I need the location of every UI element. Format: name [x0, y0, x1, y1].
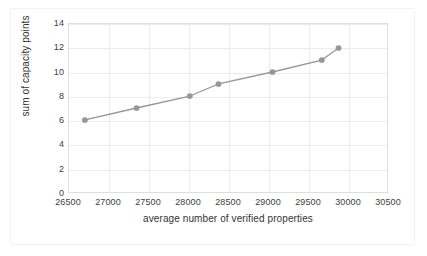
x-axis-ticks: 2650027000275002800028500290002950030000… — [68, 197, 388, 209]
data-point-marker — [82, 117, 88, 123]
chart-figure: 02468101214 2650027000275002800028500290… — [0, 0, 427, 256]
y-axis-title: sum of capacity points — [20, 0, 31, 141]
data-point-marker — [336, 45, 342, 51]
y-tick-label: 2 — [20, 164, 64, 174]
data-point-marker — [187, 93, 193, 99]
series-line — [85, 48, 339, 120]
y-axis-title-wrapper: sum of capacity points — [20, 0, 32, 141]
data-point-marker — [270, 69, 276, 75]
x-tick-label: 30500 — [358, 197, 418, 207]
data-point-marker — [216, 81, 222, 87]
data-point-marker — [319, 57, 325, 63]
data-point-marker — [134, 105, 140, 111]
line-series — [69, 24, 387, 192]
x-axis-title: average number of verified properties — [68, 213, 388, 224]
plot-area — [68, 23, 388, 193]
